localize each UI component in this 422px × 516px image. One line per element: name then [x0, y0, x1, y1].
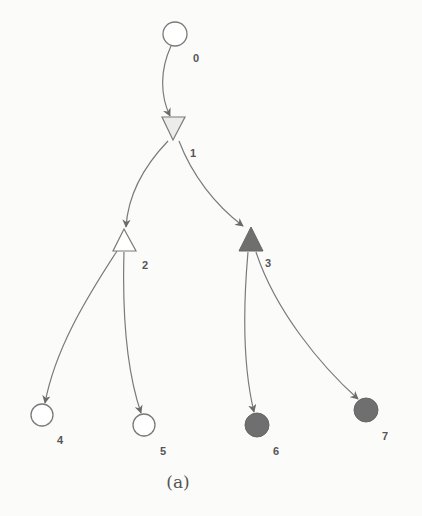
node-label: 3 [265, 257, 271, 269]
node-label: 6 [273, 445, 279, 457]
circle-node-icon [133, 414, 155, 436]
node-label: 1 [190, 147, 196, 159]
node-label: 7 [382, 430, 388, 442]
circle-filled-node-icon [354, 398, 378, 422]
edge-1-2 [126, 141, 168, 227]
node-label: 2 [142, 259, 148, 271]
node-2: 2 [113, 229, 148, 271]
node-3: 3 [239, 227, 271, 269]
node-0: 0 [163, 22, 199, 64]
node-label: 0 [193, 52, 199, 64]
node-4: 4 [31, 404, 64, 446]
edge-3-6 [245, 252, 254, 412]
figure-caption: (a) [166, 472, 189, 492]
node-1: 1 [162, 117, 196, 159]
edges [45, 46, 358, 413]
node-7: 7 [354, 398, 388, 442]
edge-1-3 [179, 141, 243, 226]
circle-filled-node-icon [245, 413, 269, 437]
circle-node-icon [31, 404, 53, 426]
triangle-up-filled-node-icon [239, 227, 263, 251]
edge-0-1 [163, 46, 171, 116]
edge-3-7 [256, 252, 358, 399]
node-label: 5 [160, 445, 166, 457]
node-5: 5 [133, 414, 166, 457]
triangle-up-node-icon [113, 229, 136, 251]
node-label: 4 [57, 434, 64, 446]
circle-node-icon [163, 22, 187, 46]
triangle-down-node-icon [162, 117, 185, 140]
node-6: 6 [245, 413, 279, 457]
edge-2-5 [124, 252, 141, 413]
edge-2-4 [45, 251, 117, 403]
tree-diagram: 0 1 2 3 4 5 6 7 (a) [0, 0, 422, 516]
